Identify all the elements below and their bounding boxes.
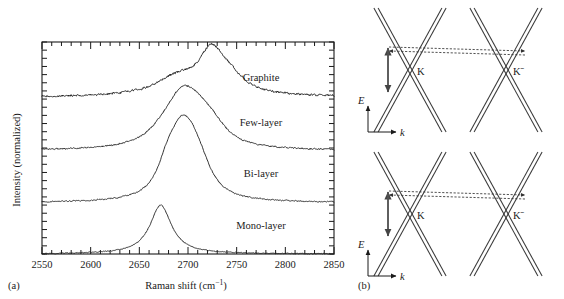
spectrum-curve-graphite [42, 43, 334, 97]
kprime-point-label: Kˉ [513, 210, 525, 221]
x-axis-title-unit: −1 [215, 278, 223, 287]
x-tick-label: 2750 [226, 259, 247, 270]
energy-axis-label: E [357, 95, 365, 106]
kprime-point-label: Kˉ [513, 66, 525, 77]
band-diagrams-plot: KKˉEkKKˉEk (b) [352, 0, 564, 299]
x-tick-label: 2700 [178, 259, 199, 270]
intervalley-scattering-arrow [389, 195, 525, 199]
y-axis-title: Intensity (normalized) [11, 113, 23, 207]
intervalley-scattering-arrow [389, 191, 525, 195]
band-diagram-group: KKˉEkKKˉEk [357, 8, 542, 282]
momentum-axis-label: k [400, 271, 405, 282]
few-layer-label: Few-layer [240, 117, 283, 128]
energy-axis-label: E [357, 239, 365, 250]
x-tick-label: 2800 [275, 259, 296, 270]
raman-spectra-band-diagram-figure: 2550260026502700275028002850 Mono-layerB… [0, 0, 564, 299]
x-tick-label: 2550 [32, 259, 53, 270]
k-point-label: K [417, 210, 425, 221]
panel-a-label: (a) [8, 280, 20, 292]
lower-band-diagram: KKˉEk [357, 152, 542, 282]
spectrum-curve-mono-layer [42, 205, 334, 254]
spectrum-curve-bi-layer [42, 115, 334, 202]
panel-b-band-diagrams: KKˉEkKKˉEk (b) [352, 0, 564, 299]
graphite-label: Graphite [243, 72, 280, 83]
curve-labels: Mono-layerBi-layerFew-layerGraphite [236, 72, 286, 231]
x-axis-tick-labels: 2550260026502700275028002850 [32, 259, 345, 270]
x-axis-title-main: Raman shift (cm [145, 280, 215, 292]
intervalley-scattering-arrow [389, 51, 525, 55]
raman-spectra-plot: 2550260026502700275028002850 Mono-layerB… [0, 0, 352, 299]
x-tick-label: 2850 [324, 259, 345, 270]
x-axis-title-close: ) [223, 280, 227, 292]
upper-band-diagram: KKˉEk [357, 8, 542, 138]
panel-b-label: (b) [358, 280, 371, 292]
x-axis-title: Raman shift (cm−1) [145, 278, 227, 292]
x-tick-label: 2600 [80, 259, 101, 270]
intervalley-scattering-arrow [389, 47, 525, 51]
spectra-curves [42, 43, 334, 254]
panel-a-raman-spectra: 2550260026502700275028002850 Mono-layerB… [0, 0, 352, 299]
momentum-axis-label: k [400, 127, 405, 138]
mono-layer-label: Mono-layer [236, 220, 286, 231]
k-point-label: K [417, 66, 425, 77]
bi-layer-label: Bi-layer [244, 168, 279, 179]
x-tick-label: 2650 [129, 259, 150, 270]
